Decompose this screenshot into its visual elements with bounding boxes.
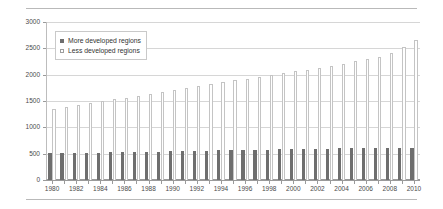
bar-group bbox=[229, 22, 236, 180]
y-tick-label: 500 bbox=[6, 150, 40, 157]
legend-item-more-developed: More developed regions bbox=[60, 36, 141, 45]
bar-less-developed bbox=[390, 53, 393, 180]
bar-less-developed bbox=[125, 98, 128, 180]
bar-less-developed bbox=[113, 99, 116, 180]
x-tick-mark bbox=[221, 181, 222, 184]
y-tick-label: 2000 bbox=[6, 71, 40, 78]
x-tick-label: 2010 bbox=[407, 185, 421, 192]
bar-group bbox=[278, 22, 285, 180]
bar-less-developed bbox=[378, 57, 381, 181]
x-tick-label: 1998 bbox=[262, 185, 276, 192]
x-tick-mark bbox=[354, 181, 355, 184]
x-tick-mark bbox=[173, 181, 174, 184]
x-tick-mark bbox=[305, 181, 306, 184]
x-tick-mark bbox=[245, 181, 246, 184]
bar-more-developed bbox=[169, 151, 172, 180]
bar-more-developed bbox=[374, 148, 377, 180]
bar-group bbox=[302, 22, 309, 180]
x-tick-mark bbox=[257, 181, 258, 184]
top-divider-rule bbox=[26, 8, 417, 9]
x-tick-mark bbox=[342, 181, 343, 184]
bar-less-developed bbox=[330, 66, 333, 180]
x-tick-mark bbox=[197, 181, 198, 184]
x-tick-label: 1986 bbox=[117, 185, 131, 192]
bar-less-developed bbox=[233, 80, 236, 180]
bar-less-developed bbox=[270, 75, 273, 180]
bar-more-developed bbox=[410, 148, 413, 180]
bar-more-developed bbox=[193, 151, 196, 180]
x-tick-mark bbox=[161, 181, 162, 184]
bar-group bbox=[241, 22, 248, 180]
x-tick-mark bbox=[269, 181, 270, 184]
bar-more-developed bbox=[386, 148, 389, 180]
bar-less-developed bbox=[318, 68, 321, 180]
x-tick-label: 2000 bbox=[286, 185, 300, 192]
legend-label: More developed regions bbox=[68, 36, 141, 45]
bar-less-developed bbox=[354, 61, 357, 180]
x-tick-mark bbox=[293, 181, 294, 184]
bar-more-developed bbox=[350, 148, 353, 180]
bar-less-developed bbox=[185, 88, 188, 180]
chart-legend: More developed regions Less developed re… bbox=[55, 31, 147, 60]
bar-less-developed bbox=[209, 84, 212, 180]
bar-more-developed bbox=[97, 153, 100, 180]
bar-less-developed bbox=[101, 101, 104, 180]
chart-figure: millions 050010001500200025003000 198019… bbox=[0, 0, 443, 209]
x-tick-mark bbox=[149, 181, 150, 184]
bar-more-developed bbox=[290, 149, 293, 180]
bar-more-developed bbox=[157, 152, 160, 180]
bar-less-developed bbox=[342, 64, 345, 180]
y-tick-label: 3000 bbox=[6, 18, 40, 25]
bar-more-developed bbox=[85, 153, 88, 180]
bar-group bbox=[205, 22, 212, 180]
x-tick-label: 1980 bbox=[45, 185, 59, 192]
x-tick-label: 2002 bbox=[310, 185, 324, 192]
bar-group bbox=[362, 22, 369, 180]
bar-more-developed bbox=[60, 153, 63, 180]
x-tick-mark bbox=[64, 181, 65, 184]
x-tick-mark bbox=[414, 181, 415, 184]
x-tick-mark bbox=[88, 181, 89, 184]
bar-less-developed bbox=[77, 105, 80, 180]
bar-more-developed bbox=[278, 149, 281, 180]
x-tick-label: 1984 bbox=[93, 185, 107, 192]
x-axis: 1980198219841986198819901992199419961998… bbox=[46, 181, 420, 197]
x-tick-mark bbox=[330, 181, 331, 184]
bar-less-developed bbox=[294, 71, 297, 180]
bar-group bbox=[350, 22, 357, 180]
bar-group bbox=[410, 22, 417, 180]
bar-group bbox=[266, 22, 273, 180]
bar-group bbox=[314, 22, 321, 180]
bar-more-developed bbox=[266, 150, 269, 180]
bar-more-developed bbox=[217, 150, 220, 180]
x-tick-label: 1988 bbox=[141, 185, 155, 192]
bar-less-developed bbox=[137, 96, 140, 180]
x-tick-mark bbox=[317, 181, 318, 184]
legend-label: Less developed regions bbox=[68, 46, 140, 55]
bar-more-developed bbox=[48, 153, 51, 180]
bar-less-developed bbox=[402, 47, 405, 180]
bar-less-developed bbox=[414, 40, 417, 180]
bar-more-developed bbox=[73, 153, 76, 180]
bar-group bbox=[326, 22, 333, 180]
bar-group bbox=[290, 22, 297, 180]
bar-group bbox=[157, 22, 164, 180]
bar-group bbox=[253, 22, 260, 180]
filled-square-marker-icon bbox=[60, 39, 64, 43]
x-tick-mark bbox=[233, 181, 234, 184]
bar-more-developed bbox=[398, 148, 401, 180]
bar-group bbox=[169, 22, 176, 180]
x-tick-mark bbox=[52, 181, 53, 184]
x-tick-mark bbox=[366, 181, 367, 184]
bar-less-developed bbox=[282, 73, 285, 180]
bar-group bbox=[386, 22, 393, 180]
bar-less-developed bbox=[306, 70, 309, 180]
x-tick-mark bbox=[124, 181, 125, 184]
bar-less-developed bbox=[366, 59, 369, 180]
y-tick-label: 0 bbox=[6, 176, 40, 183]
bar-more-developed bbox=[338, 148, 341, 180]
x-tick-mark bbox=[209, 181, 210, 184]
x-tick-label: 1996 bbox=[238, 185, 252, 192]
bar-group bbox=[181, 22, 188, 180]
x-tick-mark bbox=[378, 181, 379, 184]
